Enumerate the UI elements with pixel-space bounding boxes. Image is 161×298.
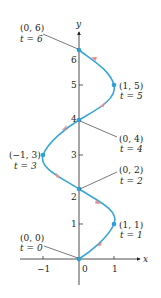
x-tick-label-0: 0 [82,264,88,274]
arrow-icon [100,102,105,107]
point-t1 [112,222,117,227]
label-coord-t0: (0, 0) [20,233,44,243]
x-tick-label-1: 1 [112,264,118,274]
point-t6 [77,48,82,53]
label-t-t4: t = 4 [120,144,143,154]
label-coord-t6: (0, 6) [20,23,44,33]
leader-lines [43,34,117,258]
label-coord-t2: (0, 2) [119,165,143,175]
x-axis-label: x [143,254,148,264]
label-coord-t4: (0, 4) [119,134,143,144]
y-tick-label-3: 3 [71,150,77,160]
label-t-t1: t = 1 [120,230,143,240]
point-t3 [41,153,46,158]
label-t-t0: t = 0 [20,243,43,253]
leader-t0 [44,246,78,258]
label-t-t6: t = 6 [20,34,43,44]
point-t0 [77,257,82,262]
y-tick-label-6: 6 [71,55,77,65]
label-t-t5: t = 5 [120,91,143,101]
curve-points [41,48,117,262]
label-coord-t3: (−1, 3) [9,150,41,160]
parametric-curve-figure: x y −1 0 1 1 2 3 4 5 6 (0, 0) [0,0,161,298]
arrow-icon [97,241,102,246]
point-t4 [77,118,82,123]
arrow-icon [56,173,61,178]
leader-t4 [80,121,117,137]
point-t5 [112,83,117,88]
label-t-t2: t = 2 [120,176,143,186]
y-tick-label-1: 1 [71,219,77,229]
x-tick-label-neg1: −1 [37,264,50,274]
y-axis-label: y [75,19,82,29]
y-tick-label-5: 5 [71,80,77,90]
label-coord-t5: (1, 5) [119,81,143,91]
label-coord-t1: (1, 1) [119,220,143,230]
label-t-t3: t = 3 [14,161,37,171]
y-tick-label-2: 2 [71,192,77,202]
leader-t6 [43,34,78,49]
leader-t2 [80,172,117,189]
